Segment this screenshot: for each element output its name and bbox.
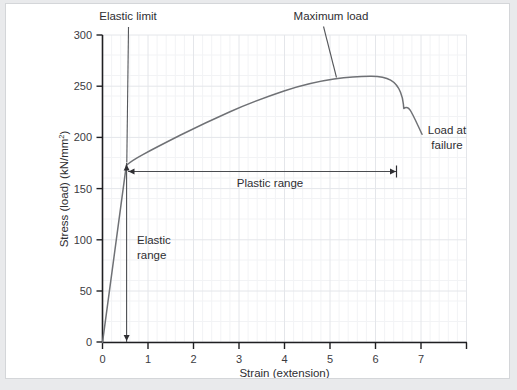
y-axis <box>97 35 103 343</box>
x-tick-label: 1 <box>145 353 151 365</box>
stress-strain-chart: 0 50 100 150 200 250 300 0 1 2 3 4 5 6 7… <box>6 4 509 378</box>
y-tick-label: 200 <box>74 131 92 143</box>
plastic-range-label: Plastic range <box>237 177 303 189</box>
x-tick-label: 3 <box>236 353 242 365</box>
maximum-load-label: Maximum load <box>294 10 369 22</box>
elastic-range-label-line1: Elastic <box>137 234 171 246</box>
plastic-range-dimension: Plastic range <box>128 166 397 190</box>
y-axis-title: Stress (load) (kN/mm2) <box>57 131 70 248</box>
x-axis <box>102 343 467 350</box>
x-tick-label: 7 <box>418 353 424 365</box>
y-axis-title-tail: ) <box>58 131 70 135</box>
svg-text:Stress (load) (kN/mm2): Stress (load) (kN/mm2) <box>57 131 70 248</box>
x-tick-label: 6 <box>372 353 378 365</box>
y-tick-label: 300 <box>74 29 92 41</box>
x-tick-labels: 0 1 2 3 4 5 6 7 <box>99 353 424 365</box>
load-at-failure-label-line2: failure <box>431 139 462 151</box>
elastic-limit-label: Elastic limit <box>99 10 157 22</box>
y-tick-label: 50 <box>80 285 92 297</box>
x-tick-label: 0 <box>99 353 105 365</box>
plastic-range-arrow-head-right <box>390 169 396 175</box>
x-tick-label: 5 <box>327 353 333 365</box>
y-tick-label: 100 <box>74 234 92 246</box>
y-tick-label: 0 <box>86 336 92 348</box>
elastic-range-arrow-head-top <box>124 165 130 171</box>
load-at-failure-label-line1: Load at <box>428 124 467 136</box>
elastic-range-dimension: Elastic range <box>124 163 172 342</box>
y-axis-title-main: Stress (load) (kN/mm <box>58 139 70 248</box>
y-tick-label: 150 <box>74 183 92 195</box>
y-tick-label: 250 <box>74 80 92 92</box>
elastic-range-label-line2: range <box>137 249 166 261</box>
elastic-range-arrow-head-bottom <box>124 335 130 341</box>
y-tick-labels: 0 50 100 150 200 250 300 <box>74 29 92 348</box>
x-tick-label: 4 <box>281 353 287 365</box>
elastic-limit-leader-line <box>127 27 129 163</box>
x-axis-title: Strain (extension) <box>239 367 329 378</box>
x-tick-label: 2 <box>190 353 196 365</box>
figure-card: 0 50 100 150 200 250 300 0 1 2 3 4 5 6 7… <box>5 3 510 379</box>
